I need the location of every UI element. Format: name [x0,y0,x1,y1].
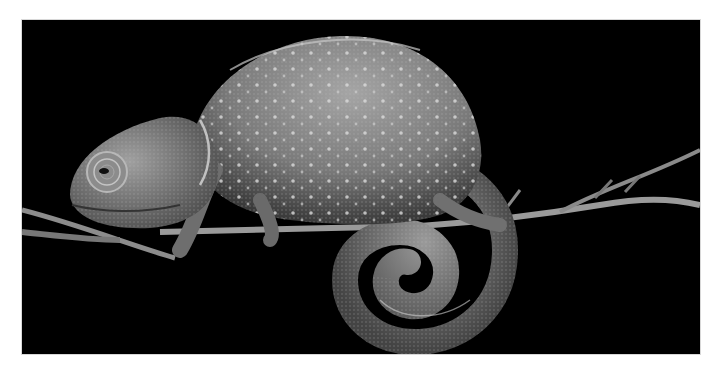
eye [87,152,127,192]
head [70,117,218,229]
chameleon-illustration [22,20,700,354]
chameleon-photo [22,20,700,354]
